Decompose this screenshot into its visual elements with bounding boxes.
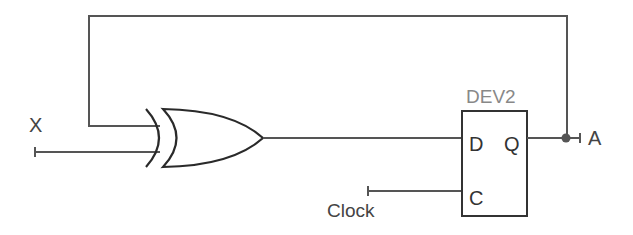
pin-q-label: Q [504, 133, 520, 155]
xor-body [163, 109, 263, 167]
xor-back-curve [146, 109, 159, 167]
xor-gate [146, 109, 263, 167]
pin-d-label: D [469, 133, 483, 155]
input-clock-label: Clock [327, 200, 375, 221]
pin-c-label: C [469, 187, 483, 209]
junction-dot [562, 134, 571, 143]
output-a-label: A [588, 127, 602, 149]
device-label: DEV2 [466, 86, 516, 107]
circuit-diagram: X Clock A DEV2 D Q C [0, 0, 633, 235]
input-x-label: X [29, 114, 42, 136]
